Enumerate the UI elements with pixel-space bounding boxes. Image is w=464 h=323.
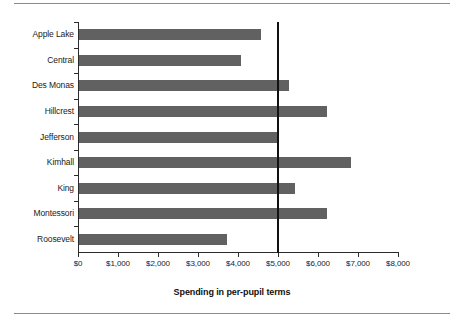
bar-hillcrest [79, 106, 327, 117]
category-axis-tick [74, 99, 78, 100]
value-axis-tick-label: $5,000 [266, 259, 290, 268]
value-axis-tick-label: $2,000 [146, 259, 170, 268]
category-axis-label: Jefferson [40, 132, 74, 142]
value-axis-tick [398, 253, 399, 257]
chart-figure: $0$1,000$2,000$3,000$4,000$5,000$6,000$7… [0, 0, 464, 323]
value-axis-tick [78, 253, 79, 257]
value-axis-tick-label: $0 [74, 259, 83, 268]
value-axis-tick-label: $1,000 [106, 259, 130, 268]
value-axis-tick-label: $7,000 [346, 259, 370, 268]
bar-roosevelt [79, 234, 227, 245]
value-axis-tick [158, 253, 159, 257]
value-axis-tick [118, 253, 119, 257]
bar-montessori [79, 208, 327, 219]
bar-des-monas [79, 80, 289, 91]
value-axis-tick [318, 253, 319, 257]
category-axis-tick [74, 175, 78, 176]
value-axis-tick [278, 253, 279, 257]
category-axis-label: Central [47, 55, 74, 65]
category-axis-tick [74, 22, 78, 23]
bar-central [79, 55, 241, 66]
category-axis-label: Roosevelt [37, 234, 74, 244]
category-axis-label: Apple Lake [32, 29, 74, 39]
category-axis-label: Montessori [33, 208, 74, 218]
category-axis-label: Des Monas [32, 80, 74, 90]
value-axis-tick [358, 253, 359, 257]
category-axis-tick [74, 73, 78, 74]
bar-kimhall [79, 157, 351, 168]
value-axis-tick-label: $8,000 [386, 259, 410, 268]
plot-area: $0$1,000$2,000$3,000$4,000$5,000$6,000$7… [0, 0, 464, 323]
value-axis-tick-label: $6,000 [306, 259, 330, 268]
category-axis-tick [74, 48, 78, 49]
value-axis-tick [198, 253, 199, 257]
bar-apple-lake [79, 29, 261, 40]
value-axis-tick-label: $3,000 [186, 259, 210, 268]
category-axis-tick [74, 201, 78, 202]
value-axis-tick-label: $4,000 [226, 259, 250, 268]
category-axis-tick [74, 226, 78, 227]
value-axis-tick [238, 253, 239, 257]
category-axis-tick [74, 150, 78, 151]
category-axis-label: Hillcrest [45, 106, 74, 116]
bar-jefferson [79, 132, 279, 143]
category-axis-label: Kimhall [47, 157, 74, 167]
bar-king [79, 183, 295, 194]
category-axis-tick [74, 124, 78, 125]
x-axis-title: Spending in per-pupil terms [0, 287, 464, 297]
benchmark-reference-line [277, 22, 279, 253]
category-axis-label: King [57, 183, 74, 193]
